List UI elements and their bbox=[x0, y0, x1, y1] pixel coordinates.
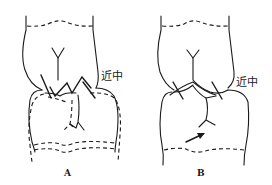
upper-tooth-b bbox=[158, 16, 234, 93]
contact-lines-b bbox=[170, 82, 222, 99]
lower-tooth-b bbox=[160, 90, 249, 165]
upper-tooth-a bbox=[23, 16, 99, 90]
panel-caption-b: B bbox=[197, 168, 205, 178]
mesial-label-b: 近中 bbox=[236, 76, 258, 89]
panel-caption-a: A bbox=[63, 168, 72, 178]
panel-a: 近中 A bbox=[23, 16, 123, 178]
figure-canvas: 近中 A bbox=[0, 0, 272, 185]
dental-occlusion-figure: 近中 A bbox=[0, 0, 272, 185]
movement-arrow-icon bbox=[186, 133, 205, 142]
panel-b: 近中 B bbox=[158, 16, 258, 178]
zigzag-contact-a bbox=[41, 75, 95, 98]
mesial-label-a: 近中 bbox=[101, 70, 123, 83]
